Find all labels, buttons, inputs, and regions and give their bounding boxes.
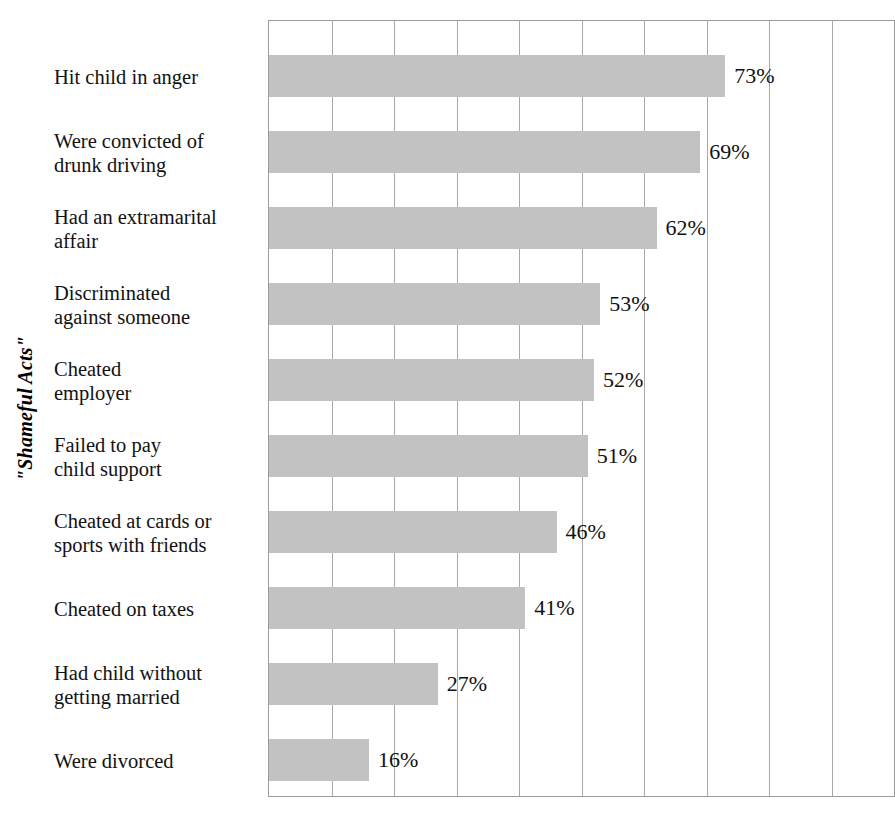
bar [269, 207, 657, 249]
category-label: Cheated on taxes [54, 597, 260, 621]
bar-value-label: 52% [603, 359, 643, 401]
bar [269, 283, 600, 325]
bar-chart: "Shameful Acts" Hit child in angerWere c… [0, 0, 895, 817]
bar [269, 359, 594, 401]
category-label: Cheated employer [54, 357, 260, 405]
bar [269, 131, 700, 173]
bar-value-label: 53% [609, 283, 649, 325]
y-axis-title-text: "Shameful Acts" [15, 336, 38, 481]
category-label: Hit child in anger [54, 65, 260, 89]
bar-value-label: 73% [734, 55, 774, 97]
bars-layer: 73%69%62%53%52%51%46%41%27%16% [268, 20, 895, 797]
y-axis-title: "Shameful Acts" [0, 0, 52, 817]
bar [269, 55, 725, 97]
bar [269, 435, 588, 477]
category-label: Had an extramarital affair [54, 205, 260, 253]
bar [269, 663, 438, 705]
bar-value-label: 46% [566, 511, 606, 553]
bar-value-label: 51% [597, 435, 637, 477]
category-label-list: Hit child in angerWere convicted of drun… [54, 20, 260, 795]
bar-value-label: 16% [378, 739, 418, 781]
category-label: Had child without getting married [54, 661, 260, 709]
bar [269, 587, 525, 629]
bar-value-label: 69% [709, 131, 749, 173]
category-label: Were divorced [54, 749, 260, 773]
bar-value-label: 41% [534, 587, 574, 629]
category-label: Were convicted of drunk driving [54, 129, 260, 177]
bar-value-label: 62% [666, 207, 706, 249]
category-label: Cheated at cards or sports with friends [54, 509, 260, 557]
category-label: Failed to pay child support [54, 433, 260, 481]
bar-value-label: 27% [447, 663, 487, 705]
bar [269, 511, 557, 553]
category-label: Discriminated against someone [54, 281, 260, 329]
bar [269, 739, 369, 781]
